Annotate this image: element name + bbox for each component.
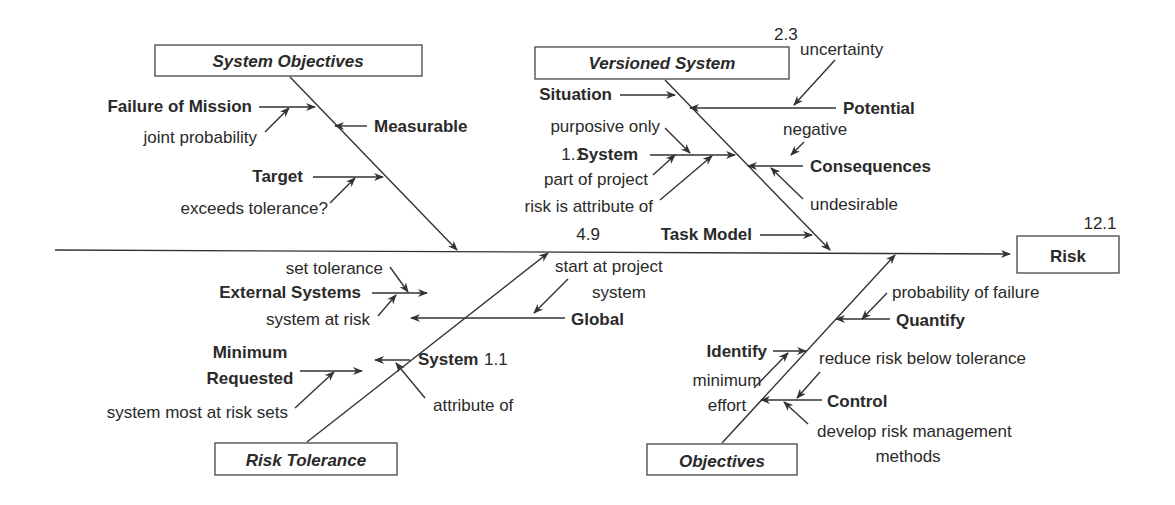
cause-system-ref: 1.1: [484, 350, 508, 369]
note-reduce-risk-below-tolerance: reduce risk below tolerance: [819, 349, 1026, 368]
note-probability-of-failure: probability of failure: [892, 283, 1039, 302]
cause-task-model: Task Model: [661, 225, 752, 244]
cause-target: Target: [252, 167, 303, 186]
cause-external-systems: External Systems: [219, 283, 361, 302]
note-arrow: [794, 60, 835, 105]
note-arrow: [784, 402, 808, 424]
note-arrow: [665, 128, 690, 153]
note-set-tolerance: set tolerance: [286, 259, 383, 278]
cause-system: System: [578, 145, 638, 164]
note-negative: negative: [783, 120, 847, 139]
note-exceeds-tolerance: exceeds tolerance?: [181, 199, 328, 218]
category-label: Objectives: [679, 452, 765, 471]
effect-ref: 12.1: [1083, 214, 1116, 233]
note-arrow: [378, 295, 396, 316]
note-arrow: [660, 156, 712, 200]
cause-control: Control: [827, 392, 887, 411]
cause-identify: Identify: [707, 342, 768, 361]
cause-minimum: Minimum: [213, 343, 288, 362]
note-risk-is-attribute-of: risk is attribute of: [525, 197, 654, 216]
note-arrow: [862, 293, 887, 319]
cause-global: Global: [571, 310, 624, 329]
branch-system-objectives: System Objectives Failure of Mission joi…: [107, 45, 467, 250]
note-system-at-risk: system at risk: [266, 310, 370, 329]
note-part-of-project: part of project: [544, 170, 648, 189]
category-label: Risk Tolerance: [246, 451, 366, 470]
branch-objectives: Objectives probability of failure Quanti…: [647, 255, 1039, 475]
note-purposive-only: purposive only: [550, 117, 660, 136]
cause-system: System: [418, 350, 478, 369]
cause-failure-of-mission: Failure of Mission: [107, 97, 252, 116]
note-joint-probability: joint probability: [143, 128, 258, 147]
note-uncertainty: uncertainty: [800, 40, 884, 59]
note-start-at-project: start at project: [555, 257, 663, 276]
note-arrow: [534, 279, 568, 313]
note-effort: effort: [708, 396, 747, 415]
note-attribute-of: attribute of: [433, 396, 514, 415]
cause-potential: Potential: [843, 99, 915, 118]
note-arrow: [797, 372, 820, 398]
note-system: system: [592, 283, 646, 302]
cause-measurable: Measurable: [374, 117, 468, 136]
category-label: Versioned System: [589, 54, 736, 73]
category-label: System Objectives: [212, 52, 363, 71]
note-arrow: [390, 267, 408, 292]
branch-line: [290, 77, 457, 250]
note-develop-risk-management: develop risk management: [817, 422, 1012, 441]
effect-label: Risk: [1050, 247, 1086, 266]
spine-arrow: [55, 250, 1010, 254]
note-arrow: [791, 142, 804, 155]
note-system-most-at-risk-sets: system most at risk sets: [107, 403, 288, 422]
branch-versioned-system: Versioned System 2.3 Situation Potential…: [525, 25, 931, 250]
note-arrow: [653, 155, 675, 175]
cause-quantify: Quantify: [896, 311, 965, 330]
fishbone-diagram: Risk 12.1 System Objectives Failure of M…: [0, 0, 1175, 505]
cause-task-model-ref: 4.9: [576, 225, 600, 244]
branch-risk-tolerance: Risk Tolerance set tolerance External Sy…: [107, 253, 663, 475]
note-arrow: [265, 108, 289, 132]
cause-situation: Situation: [539, 85, 612, 104]
note-minimum: minimum: [693, 371, 762, 390]
cause-requested: Requested: [207, 369, 294, 388]
note-arrow: [295, 372, 334, 408]
note-arrow: [330, 178, 355, 203]
note-undesirable: undesirable: [810, 195, 898, 214]
category-ref: 2.3: [774, 25, 798, 44]
cause-consequences: Consequences: [810, 157, 931, 176]
note-methods: methods: [875, 447, 940, 466]
